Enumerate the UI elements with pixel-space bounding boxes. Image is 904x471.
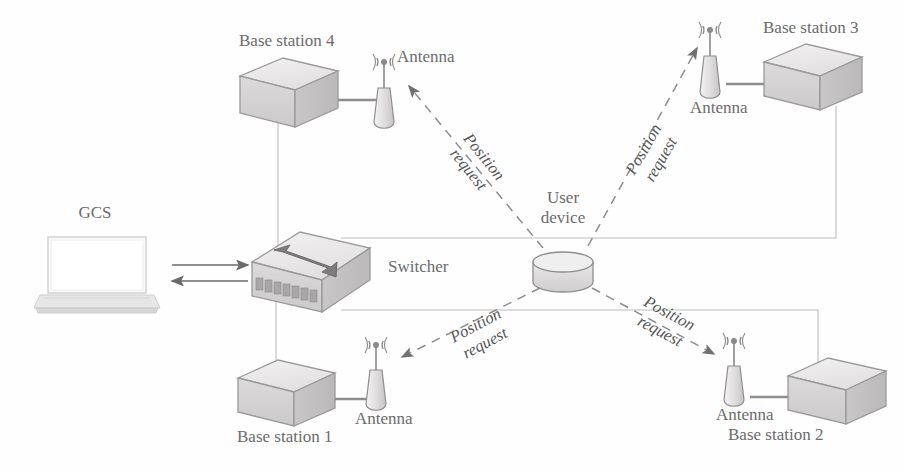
antenna-icon-bs3 [699, 22, 721, 98]
base-station-1-node[interactable]: Base station 1 Antenna [237, 337, 413, 446]
cylinder-puck-icon [533, 252, 593, 292]
antenna-label-bs4: Antenna [397, 47, 455, 66]
diagram-canvas: GCS Switcher [0, 0, 904, 471]
user-device-label-line2: device [541, 208, 585, 227]
antenna-label-bs2: Antenna [716, 405, 774, 424]
switcher-label: Switcher [388, 257, 449, 276]
gcs-node[interactable]: GCS [34, 203, 160, 313]
base-station-2-label: Base station 2 [728, 425, 823, 444]
antenna-icon-bs4 [373, 54, 395, 128]
base-station-1-label: Base station 1 [237, 427, 332, 446]
position-request-label-bs1: Position request [446, 304, 514, 365]
link-switcher-bs2 [341, 310, 818, 366]
antenna-label-bs3: Antenna [690, 98, 748, 117]
position-request-label-bs4: Position request [443, 128, 509, 196]
laptop-icon [34, 237, 160, 313]
server-box-icon-bs4 [240, 58, 338, 127]
link-switcher-bs3 [341, 106, 836, 238]
position-request-label-bs3: Position request [621, 121, 683, 189]
base-station-4-node[interactable]: Base station 4 Antenna [239, 31, 455, 128]
antenna-icon-bs1 [365, 337, 387, 410]
switch-box-icon [252, 232, 370, 312]
base-station-3-node[interactable]: Base station 3 Antenna [690, 18, 862, 117]
topology-links [276, 106, 836, 366]
gcs-label: GCS [78, 203, 111, 222]
base-station-4-label: Base station 4 [239, 31, 335, 50]
user-device-node[interactable]: User device [533, 188, 593, 292]
server-box-icon-bs1 [238, 360, 335, 426]
server-box-icon-bs2 [788, 358, 886, 424]
antenna-icon-bs2 [723, 333, 745, 406]
position-request-label-bs2: Position request [631, 291, 699, 352]
server-box-icon-bs3 [764, 44, 862, 110]
network-diagram: GCS Switcher [0, 0, 904, 471]
antenna-label-bs1: Antenna [355, 409, 413, 428]
gcs-switcher-duplex [172, 265, 248, 281]
base-station-2-node[interactable]: Base station 2 Antenna [716, 333, 886, 444]
switcher-node[interactable]: Switcher [252, 232, 449, 312]
base-station-3-label: Base station 3 [763, 18, 858, 37]
user-device-label-line1: User [547, 188, 579, 207]
